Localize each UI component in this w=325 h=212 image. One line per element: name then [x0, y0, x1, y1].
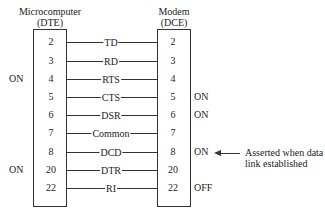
dce-name: Modem: [148, 6, 200, 17]
dce-state: ON: [194, 146, 208, 157]
dte-pin: 22: [41, 182, 61, 193]
dce-pin: 4: [163, 73, 183, 84]
dte-pin: 4: [41, 73, 61, 84]
annotation-line-2: link established: [245, 158, 308, 169]
dce-pin: 8: [163, 146, 183, 157]
dte-pin: 3: [41, 55, 61, 66]
signal-label: RD: [103, 56, 119, 67]
dce-state: ON: [194, 91, 208, 102]
signal-label: DCD: [99, 147, 122, 158]
signal-label: CTS: [101, 92, 121, 103]
dce-state: OFF: [194, 182, 212, 193]
dce-type: (DCE): [148, 17, 200, 28]
signal-label: Common: [91, 128, 130, 139]
dte-pin: 6: [41, 109, 61, 120]
dte-pin: 20: [41, 164, 61, 175]
dte-state: ON: [9, 73, 23, 84]
dte-pin: 2: [41, 36, 61, 47]
dce-pin: 5: [163, 91, 183, 102]
dte-pin: 7: [41, 127, 61, 138]
dte-name: Microcomputer: [12, 6, 88, 17]
arrow-line: [220, 153, 240, 154]
dce-pin: 20: [163, 164, 183, 175]
dce-state: ON: [194, 109, 208, 120]
dte-type: (DTE): [12, 17, 88, 28]
dte-pin: 8: [41, 146, 61, 157]
dte-pin: 5: [41, 91, 61, 102]
dce-pin: 7: [163, 127, 183, 138]
dce-pin: 22: [163, 182, 183, 193]
dce-pin: 3: [163, 55, 183, 66]
dce-pin: 2: [163, 36, 183, 47]
dte-state: ON: [9, 164, 23, 175]
signal-label: RI: [105, 183, 117, 194]
signal-label: DSR: [100, 110, 121, 121]
signal-label: RTS: [101, 74, 121, 85]
signal-label: DTR: [100, 165, 122, 176]
annotation-line-1: Asserted when data: [245, 147, 323, 158]
signal-label: TD: [103, 37, 118, 48]
dce-pin: 6: [163, 109, 183, 120]
